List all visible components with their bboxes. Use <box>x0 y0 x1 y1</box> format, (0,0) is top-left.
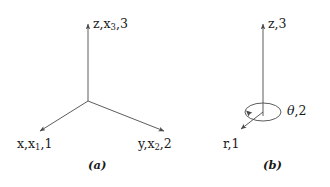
axis-label-z-b: z,3 <box>268 18 287 31</box>
axis-label-y-a: y,x2,2 <box>138 138 172 152</box>
axis-label-x-a: x,x1,1 <box>17 138 52 152</box>
axis-label-r-b: r,1 <box>223 138 240 151</box>
axis-label-x-a-post: ,1 <box>41 136 53 151</box>
axis-label-z-a-post: ,3 <box>116 16 128 31</box>
axis-label-y-a-post: ,2 <box>160 136 172 151</box>
panel-b-caption: (b) <box>263 160 282 172</box>
panel-a-cartesian: z,x3,3 x,x1,1 y,x2,2 (a) <box>0 0 205 187</box>
axis-label-y-a-pre: y,x <box>138 136 154 151</box>
panel-a-caption: (a) <box>88 160 106 172</box>
x-axis-line-a <box>40 101 88 131</box>
figure-root: z,x3,3 x,x1,1 y,x2,2 (a) z,3 θ,2 r,1 (b) <box>0 0 330 187</box>
axis-label-theta-b: θ,2 <box>287 105 306 118</box>
y-axis-line-a <box>88 101 164 131</box>
theta-symbol: θ <box>287 103 295 118</box>
axis-label-z-a: z,x3,3 <box>93 18 128 32</box>
axis-label-x-a-pre: x,x <box>17 136 35 151</box>
theta-suffix: ,2 <box>295 103 307 118</box>
panel-b-cylindrical: z,3 θ,2 r,1 (b) <box>205 0 330 187</box>
axis-label-z-a-pre: z,x <box>93 16 111 31</box>
